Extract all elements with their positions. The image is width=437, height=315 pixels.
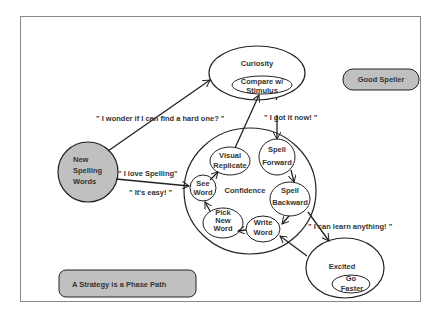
- go-faster-label-2: Faster: [341, 284, 364, 293]
- curiosity-label: Curiosity: [241, 59, 274, 68]
- spell-backward-label-1: Spell: [281, 186, 299, 195]
- visual-label-2: Replicate: [213, 161, 246, 170]
- spell-backward-label-2: Backward: [272, 198, 308, 207]
- quote-love: " I love Spelling": [118, 169, 178, 178]
- quote-got-it: " I got it now! ": [264, 113, 318, 122]
- quote-easy: " It's easy! ": [129, 188, 173, 197]
- write-word-label-1: Write: [254, 218, 273, 227]
- excited-label: Excited: [329, 262, 356, 271]
- phase-path-diagram: Curiosity Compare w/ Stimulus Good Spell…: [0, 0, 437, 315]
- spell-forward-node: Spell Forward: [259, 139, 295, 175]
- write-word-node: Write Word: [246, 216, 280, 242]
- go-faster-label-1: Go: [346, 274, 357, 283]
- see-word-node: See Word: [190, 175, 216, 201]
- spell-forward-label-2: Forward: [262, 158, 292, 167]
- quote-learn: " I can learn anything! ": [308, 222, 393, 231]
- visual-label-1: Visual: [219, 151, 241, 160]
- confidence-label: Confidence: [225, 186, 266, 195]
- pick-label-3: Word: [213, 224, 232, 233]
- strategy-title-label: A Strategy is a Phase Path: [72, 280, 167, 289]
- new-words-label-2: Spelling: [73, 166, 103, 175]
- good-speller-box: Good Speller: [343, 69, 419, 90]
- see-label-1: See: [196, 179, 209, 188]
- new-words-label-1: New: [73, 155, 89, 164]
- spell-backward-node: Spell Backward: [270, 182, 310, 216]
- write-word-label-2: Word: [253, 228, 272, 237]
- excited-node: Excited Go Faster: [306, 238, 384, 298]
- pick-new-word-node: Pick New Word: [203, 208, 243, 238]
- see-label-2: Word: [193, 188, 212, 197]
- curiosity-node: Curiosity Compare w/ Stimulus: [209, 46, 305, 100]
- compare-label-2: Stimulus: [246, 86, 278, 95]
- new-words-label-3: Words: [73, 177, 96, 186]
- spell-forward-label-1: Spell: [268, 145, 286, 154]
- visual-replicate-node: Visual Replicate: [210, 147, 250, 175]
- compare-label-1: Compare w/: [241, 77, 284, 86]
- strategy-title-box: A Strategy is a Phase Path: [59, 270, 196, 297]
- good-speller-label: Good Speller: [358, 75, 405, 84]
- quote-wonder: " I wonder if I can find a hard one? ": [96, 114, 225, 123]
